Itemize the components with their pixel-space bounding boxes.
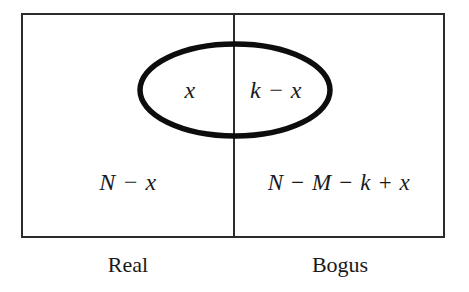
column-label-real: Real: [108, 252, 148, 277]
column-label-bogus: Bogus: [312, 252, 368, 277]
venn-partition-diagram: x k − x N − x N − M − k + x Real Bogus: [0, 0, 469, 292]
diagram-canvas: x k − x N − x N − M − k + x Real Bogus: [0, 0, 469, 292]
region-label-outside-left: N − x: [98, 169, 156, 195]
region-label-ellipse-left: x: [183, 77, 195, 103]
region-label-ellipse-right: k − x: [250, 77, 302, 103]
region-label-outside-right: N − M − k + x: [267, 170, 411, 195]
